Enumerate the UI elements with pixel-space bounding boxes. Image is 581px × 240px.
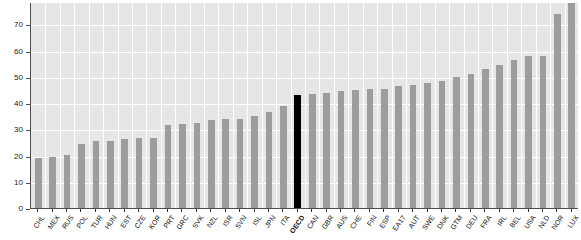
bar-cze bbox=[136, 138, 143, 208]
bar-kor bbox=[150, 138, 157, 208]
bar-isl bbox=[251, 116, 258, 208]
x-tick-mark bbox=[239, 209, 240, 212]
bar-chl bbox=[35, 158, 42, 208]
x-tick-label-ita: ITA bbox=[279, 214, 291, 227]
y-tick-label: 0 bbox=[19, 205, 23, 213]
x-tick-label-fra: FRA bbox=[479, 214, 493, 229]
x-tick-mark bbox=[499, 209, 500, 212]
bar-fin bbox=[367, 89, 374, 208]
bar-tur bbox=[93, 141, 100, 208]
x-tick-mark bbox=[52, 209, 53, 212]
x-tick-mark bbox=[427, 209, 428, 212]
x-tick-mark bbox=[383, 209, 384, 212]
x-tick-label-lux: LUX bbox=[566, 214, 580, 229]
x-tick-mark bbox=[412, 209, 413, 212]
y-tick-label: 20 bbox=[14, 153, 23, 161]
x-tick-mark bbox=[268, 209, 269, 212]
x-tick-mark bbox=[225, 209, 226, 212]
x-tick-mark bbox=[138, 209, 139, 212]
bar-gbr bbox=[323, 93, 330, 208]
bar-ea17 bbox=[395, 86, 402, 208]
x-tick-label-hun: HUN bbox=[104, 214, 118, 230]
x-tick-label-cze: CZE bbox=[133, 214, 147, 229]
x-tick-mark bbox=[354, 209, 355, 212]
x-tick-label-can: CAN bbox=[306, 214, 320, 230]
x-tick-label-kor: KOR bbox=[147, 214, 161, 230]
y-axis: 010203040506070 bbox=[0, 0, 30, 212]
x-tick-mark bbox=[66, 209, 67, 212]
x-tick-mark bbox=[311, 209, 312, 212]
x-tick-label-aus: AUS bbox=[335, 214, 349, 230]
bar-ita bbox=[280, 106, 287, 208]
x-tick-label-gtm: GTM bbox=[449, 214, 464, 231]
bar-rus bbox=[64, 155, 71, 208]
bar-hun bbox=[107, 141, 114, 208]
y-tick-label: 10 bbox=[14, 179, 23, 187]
x-tick-label-mex: MEX bbox=[46, 214, 60, 230]
x-tick-mark bbox=[297, 209, 298, 212]
x-tick-mark bbox=[210, 209, 211, 212]
x-tick-label-swe: SWE bbox=[420, 214, 435, 231]
bar-usa bbox=[525, 56, 532, 208]
bar-svn bbox=[237, 119, 244, 208]
bar-lux bbox=[568, 3, 575, 208]
bar-bel bbox=[511, 60, 518, 208]
y-tick-label: 30 bbox=[14, 126, 23, 134]
x-tick-mark bbox=[369, 209, 370, 212]
x-tick-label-bel: BEL bbox=[509, 214, 522, 229]
x-tick-label-che: CHE bbox=[349, 214, 363, 230]
x-tick-mark bbox=[571, 209, 572, 212]
x-tick-label-aut: AUT bbox=[407, 214, 421, 229]
x-tick-mark bbox=[109, 209, 110, 212]
x-tick-label-dnk: DNK bbox=[436, 214, 450, 230]
x-tick-mark bbox=[326, 209, 327, 212]
y-tick-label: 70 bbox=[14, 21, 23, 29]
x-tick-label-deu: DEU bbox=[464, 214, 478, 230]
x-tick-mark bbox=[124, 209, 125, 212]
x-tick-mark bbox=[95, 209, 96, 212]
x-tick-label-chl: CHL bbox=[32, 214, 46, 229]
x-tick-mark bbox=[513, 209, 514, 212]
bar-aut bbox=[410, 85, 417, 208]
x-tick-label-rus: RUS bbox=[61, 214, 75, 230]
bar-pol bbox=[78, 144, 85, 208]
x-tick-label-usa: USA bbox=[522, 214, 536, 230]
bar-gtm bbox=[453, 77, 460, 208]
x-tick-label-grc: GRC bbox=[175, 214, 190, 231]
x-tick-label-gbr: GBR bbox=[320, 214, 334, 230]
y-tick-label: 40 bbox=[14, 100, 23, 108]
x-tick-mark bbox=[153, 209, 154, 212]
x-tick-label-jpn: JPN bbox=[263, 214, 276, 229]
x-tick-label-esp: ESP bbox=[378, 214, 392, 229]
bar-mex bbox=[49, 157, 56, 208]
bar-aus bbox=[338, 91, 345, 208]
bar-isr bbox=[222, 119, 229, 208]
bar-grc bbox=[179, 124, 186, 208]
bar-series bbox=[31, 3, 578, 208]
bar-swe bbox=[424, 83, 431, 208]
y-tick-label: 60 bbox=[14, 48, 23, 56]
x-tick-label-nzl: NZL bbox=[206, 214, 219, 229]
bar-che bbox=[352, 90, 359, 208]
x-tick-mark bbox=[37, 209, 38, 212]
bar-nld bbox=[540, 56, 547, 208]
bar-nor bbox=[554, 14, 561, 208]
x-tick-label-nld: NLD bbox=[537, 214, 551, 229]
x-tick-label-isl: ISL bbox=[250, 214, 262, 227]
x-tick-label-est: EST bbox=[119, 214, 133, 229]
x-tick-mark bbox=[282, 209, 283, 212]
x-tick-label-ea17: EA17 bbox=[391, 214, 407, 232]
plot-area bbox=[30, 3, 578, 209]
bar-nzl bbox=[208, 120, 215, 208]
x-tick-mark bbox=[542, 209, 543, 212]
bar-fra bbox=[482, 69, 489, 208]
x-tick-mark bbox=[181, 209, 182, 212]
x-tick-mark bbox=[196, 209, 197, 212]
bar-svk bbox=[194, 123, 201, 208]
x-tick-mark bbox=[441, 209, 442, 212]
x-tick-mark bbox=[167, 209, 168, 212]
x-axis: CHLMEXRUSPOLTURHUNESTCZEKORPRTGRCSVKNZLI… bbox=[30, 209, 578, 240]
x-tick-label-svk: SVK bbox=[191, 214, 205, 229]
x-tick-mark bbox=[80, 209, 81, 212]
x-tick-mark bbox=[340, 209, 341, 212]
